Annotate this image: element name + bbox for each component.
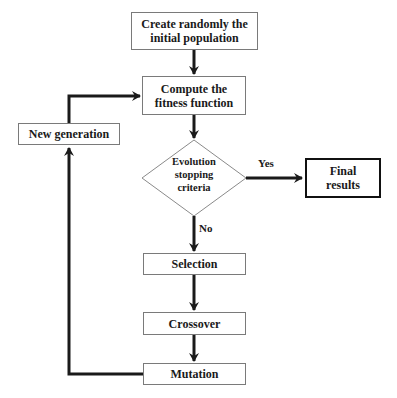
node-label: Selection	[172, 257, 218, 271]
node-compute-fitness: Compute the fitness function	[142, 76, 246, 115]
node-selection: Selection	[143, 253, 246, 275]
node-final-results: Final results	[305, 158, 381, 198]
node-label: Final	[326, 164, 360, 178]
connectors	[0, 0, 397, 398]
node-label: initial population	[141, 31, 247, 45]
node-label: Mutation	[171, 367, 219, 381]
node-label: Crossover	[169, 317, 221, 331]
node-mutation: Mutation	[143, 363, 246, 385]
decision-label-line: stopping	[150, 168, 238, 181]
arrow-new-generation-to-fitness	[69, 96, 140, 123]
arrow-mutation-to-new-generation	[69, 148, 143, 374]
node-new-generation: New generation	[18, 123, 120, 145]
decision-label-line: criteria	[150, 181, 238, 194]
node-crossover: Crossover	[143, 312, 246, 335]
node-label: Create randomly the	[141, 17, 247, 31]
node-label: results	[326, 178, 360, 192]
node-label: fitness function	[155, 96, 233, 110]
decision-label-line: Evolution	[150, 155, 238, 168]
edge-label-yes: Yes	[258, 157, 274, 169]
node-label: New generation	[29, 127, 109, 141]
decision-label: Evolution stopping criteria	[150, 155, 238, 194]
node-create-initial-population: Create randomly the initial population	[131, 12, 258, 50]
edge-label-no: No	[199, 222, 212, 234]
node-label: Compute the	[155, 82, 233, 96]
